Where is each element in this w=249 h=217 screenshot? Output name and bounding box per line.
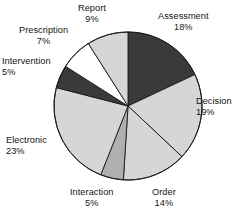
pie-label-value: 14%: [152, 198, 176, 209]
pie-label-name: Prescription: [19, 25, 68, 36]
pie-label-value: 9%: [78, 14, 106, 25]
pie-label-name: Intervention: [2, 56, 51, 67]
pie-label-assessment: Assessment18%: [158, 11, 209, 32]
pie-label-name: Decision: [196, 96, 232, 107]
pie-label-name: Interaction: [70, 187, 113, 198]
pie-label-name: Report: [78, 3, 106, 14]
pie-label-order: Order14%: [152, 187, 176, 208]
pie-label-name: Assessment: [158, 11, 209, 22]
pie-chart: Assessment18%Decision19%Order14%Interact…: [0, 0, 249, 217]
pie-label-value: 5%: [2, 67, 51, 78]
pie-label-value: 5%: [70, 198, 113, 209]
pie-label-name: Order: [152, 187, 176, 198]
pie-label-name: Electronic: [6, 135, 47, 146]
pie-label-value: 7%: [19, 36, 68, 47]
pie-label-decision: Decision19%: [196, 96, 232, 117]
pie-label-interaction: Interaction5%: [70, 187, 113, 208]
pie-label-electronic: Electronic23%: [6, 135, 47, 156]
pie-label-value: 19%: [196, 107, 232, 118]
pie-label-prescription: Prescription7%: [19, 25, 68, 46]
pie-label-intervention: Intervention5%: [2, 56, 51, 77]
pie-label-report: Report9%: [78, 3, 106, 24]
pie-label-value: 23%: [6, 146, 47, 157]
pie-label-value: 18%: [158, 22, 209, 33]
